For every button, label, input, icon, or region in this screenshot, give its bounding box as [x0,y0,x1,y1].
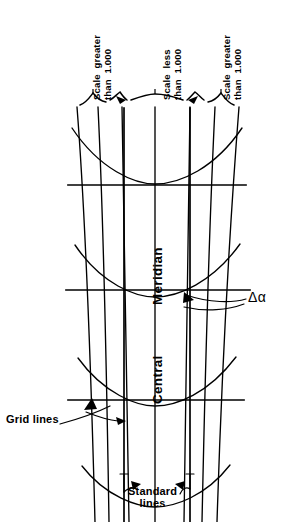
delta-alpha-callout [184,295,246,310]
label-grid-lines: Grid lines [6,413,59,425]
projection-grid-diagram [0,0,289,522]
label-standard-lines: Standard lines [128,485,177,510]
parallel-1 [72,128,242,184]
label-meridian: Meridian [150,247,165,305]
label-central: Central [150,355,165,404]
grid-lines-arrowheads [84,398,126,425]
meridian-right-2 [202,107,215,522]
meridian-far-right [217,107,239,522]
label-delta-alpha: Δα [248,290,266,306]
graticule-meridians [77,107,239,522]
meridian-far-left [77,107,95,522]
meridian-left-1 [122,107,129,522]
delta-leader-lower [184,304,244,310]
meridian-right-1 [184,107,190,522]
gridlines-leader-2 [86,412,118,421]
meridian-left-2 [98,107,109,522]
label-scale-greater-right: Scale greater than 1.000 [222,35,243,100]
label-scale-greater-left: Scale greater than 1.000 [92,35,113,100]
delta-leader-upper [186,295,246,302]
label-scale-less-middle: Scale less than 1.000 [162,49,183,100]
top-brace-arrowheads [116,96,198,104]
